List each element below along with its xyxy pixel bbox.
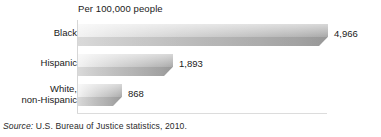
bar-white-non-hispanic xyxy=(78,84,122,106)
bar-black xyxy=(78,24,328,46)
category-label-line1: White, xyxy=(50,83,77,94)
source-text: U.S. Bureau of Justice statistics, 2010. xyxy=(36,121,187,131)
bar-row-hispanic: Hispanic 1,893 xyxy=(0,52,381,82)
bar-highlight xyxy=(78,24,328,37)
category-label-hispanic: Hispanic xyxy=(0,58,77,69)
x-axis-baseline xyxy=(77,113,327,114)
bar-row-white-non-hispanic: White, non-Hispanic 868 xyxy=(0,82,381,112)
bar-hispanic xyxy=(78,54,173,76)
value-label-black: 4,966 xyxy=(334,28,358,39)
bar-fill-hispanic xyxy=(78,54,173,76)
bar-highlight xyxy=(78,84,122,97)
category-label-black: Black xyxy=(0,28,77,39)
value-label-hispanic: 1,893 xyxy=(179,58,203,69)
chart-title: Per 100,000 people xyxy=(78,3,163,14)
chart-figure: Per 100,000 people Black 4,966 Hispanic … xyxy=(0,0,381,137)
category-label-line2: non-Hispanic xyxy=(0,95,77,106)
bar-row-black: Black 4,966 xyxy=(0,22,381,52)
bar-highlight xyxy=(78,54,173,67)
source-prefix: Source: xyxy=(3,121,33,131)
category-label-white-non-hispanic: White, non-Hispanic xyxy=(0,84,77,105)
value-label-white-non-hispanic: 868 xyxy=(128,88,144,99)
bar-fill-white-non-hispanic xyxy=(78,84,122,106)
plot-area: Black 4,966 Hispanic 1,893 White, non-Hi… xyxy=(0,20,381,117)
source-note: Source: U.S. Bureau of Justice statistic… xyxy=(3,121,187,131)
bar-fill-black xyxy=(78,24,328,46)
